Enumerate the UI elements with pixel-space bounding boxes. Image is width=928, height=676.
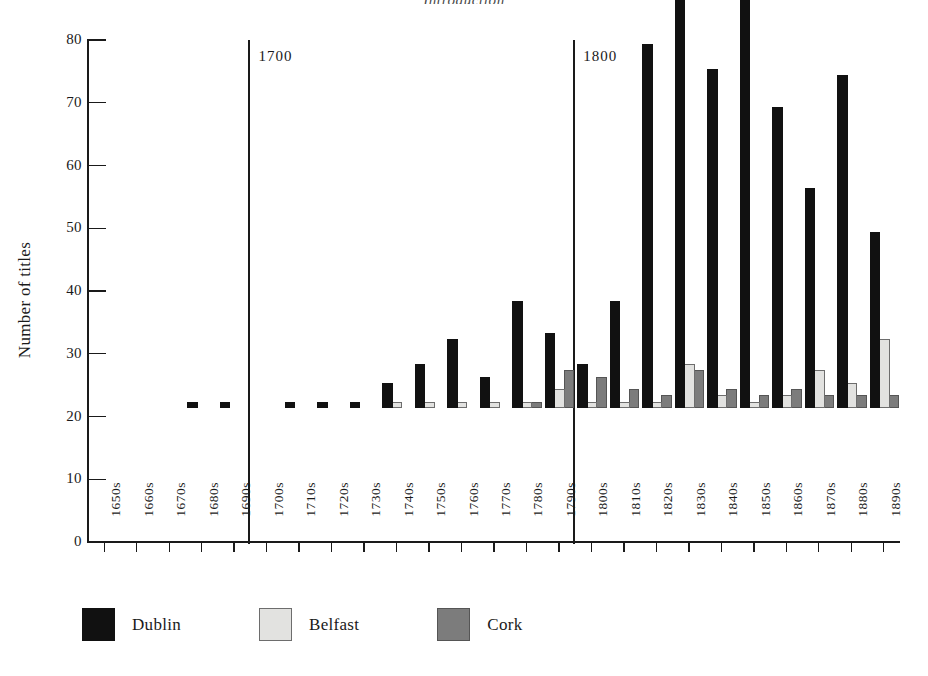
- x-axis-tick: [396, 543, 397, 552]
- dark-gray-square-swatch: [437, 608, 470, 641]
- bar-group: [740, 0, 772, 408]
- x-axis-tick: [721, 543, 722, 552]
- bar-group: [122, 0, 154, 408]
- legend-item-dublin: Dublin: [82, 608, 181, 641]
- x-axis-tick: [623, 543, 624, 552]
- legend-label: Belfast: [309, 615, 359, 635]
- bar-group: [870, 0, 902, 408]
- bar-dublin-1870s: [805, 188, 816, 408]
- x-axis-tick: [233, 543, 234, 552]
- bar-dublin-1880s: [837, 75, 848, 408]
- bar-dublin-1740s: [382, 383, 393, 408]
- bar-cork-1860s: [791, 389, 802, 408]
- bars-layer: [0, 0, 928, 542]
- bar-chart-figure: Number of titles 80706050403020100 1650s…: [0, 0, 928, 676]
- bar-group: [285, 0, 317, 408]
- x-axis-tick: [851, 543, 852, 552]
- bar-belfast-1780s: [522, 402, 533, 408]
- bar-group: [675, 0, 707, 408]
- bar-cork-1890s: [889, 395, 900, 408]
- bar-dublin-1760s: [447, 339, 458, 408]
- bar-belfast-1850s: [749, 402, 760, 408]
- bar-group: [707, 0, 739, 408]
- legend-item-cork: Cork: [437, 608, 522, 641]
- legend-label: Cork: [487, 615, 522, 635]
- bar-cork-1840s: [726, 389, 737, 408]
- bar-group: [350, 0, 382, 408]
- x-axis-tick: [688, 543, 689, 552]
- bar-group: [252, 0, 284, 408]
- bar-belfast-1840s: [717, 395, 728, 408]
- bar-dublin-1690s: [220, 402, 231, 408]
- bar-cork-1850s: [759, 395, 770, 408]
- bar-cork-1830s: [694, 370, 705, 408]
- bar-group: [512, 0, 544, 408]
- bar-belfast-1870s: [814, 370, 825, 408]
- bar-group: [317, 0, 349, 408]
- bar-cork-1790s: [564, 370, 575, 408]
- bar-group: [837, 0, 869, 408]
- bar-cork-1820s: [661, 395, 672, 408]
- bar-dublin-1890s: [870, 232, 881, 408]
- bar-belfast-1820s: [652, 402, 663, 408]
- x-axis-tick: [461, 543, 462, 552]
- x-axis-tick: [298, 543, 299, 552]
- bar-belfast-1760s: [457, 402, 468, 408]
- bar-group: [155, 0, 187, 408]
- bar-group: [220, 0, 252, 408]
- bar-dublin-1850s: [740, 0, 751, 408]
- bar-group: [805, 0, 837, 408]
- bar-group: [447, 0, 479, 408]
- x-axis-tick: [883, 543, 884, 552]
- bar-dublin-1710s: [285, 402, 296, 408]
- x-axis-tick: [136, 543, 137, 552]
- bar-belfast-1800s: [587, 402, 598, 408]
- bar-cork-1880s: [856, 395, 867, 408]
- bar-belfast-1810s: [619, 402, 630, 408]
- bar-dublin-1680s: [187, 402, 198, 408]
- x-axis-tick: [786, 543, 787, 552]
- x-axis-tick: [818, 543, 819, 552]
- x-axis-tick: [266, 543, 267, 552]
- x-axis-tick: [656, 543, 657, 552]
- bar-group: [90, 0, 122, 408]
- legend-label: Dublin: [132, 615, 181, 635]
- bar-dublin-1800s: [577, 364, 588, 408]
- bar-belfast-1860s: [782, 395, 793, 408]
- bar-cork-1810s: [629, 389, 640, 408]
- bar-group: [382, 0, 414, 408]
- bar-belfast-1740s: [392, 402, 403, 408]
- bar-belfast-1770s: [489, 402, 500, 408]
- bar-group: [480, 0, 512, 408]
- bar-belfast-1830s: [684, 364, 695, 408]
- bar-belfast-1790s: [554, 389, 565, 408]
- bar-group: [415, 0, 447, 408]
- x-axis-tick: [526, 543, 527, 552]
- bar-group: [642, 0, 674, 408]
- bar-group: [545, 0, 577, 408]
- bar-cork-1800s: [596, 377, 607, 408]
- bar-group: [187, 0, 219, 408]
- bar-dublin-1810s: [610, 301, 621, 408]
- legend-item-belfast: Belfast: [259, 608, 359, 641]
- x-axis-tick: [104, 543, 105, 552]
- light-gray-square-swatch: [259, 608, 292, 641]
- x-axis-tick: [428, 543, 429, 552]
- x-axis-tick: [591, 543, 592, 552]
- bar-belfast-1750s: [424, 402, 435, 408]
- bar-dublin-1730s: [350, 402, 361, 408]
- bar-group: [772, 0, 804, 408]
- bar-dublin-1860s: [772, 107, 783, 408]
- bar-belfast-1890s: [879, 339, 890, 408]
- x-axis-tick: [201, 543, 202, 552]
- bar-group: [610, 0, 642, 408]
- x-axis-tick: [493, 543, 494, 552]
- x-axis-tick: [169, 543, 170, 552]
- x-axis-tick: [331, 543, 332, 552]
- bar-dublin-1720s: [317, 402, 328, 408]
- bar-group: [577, 0, 609, 408]
- bar-dublin-1770s: [480, 377, 491, 408]
- bar-cork-1780s: [531, 402, 542, 408]
- black-square-swatch: [82, 608, 115, 641]
- x-axis-tick: [363, 543, 364, 552]
